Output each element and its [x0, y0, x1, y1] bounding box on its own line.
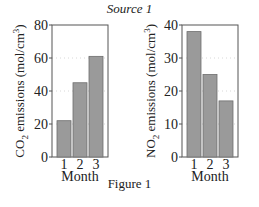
- figure-caption: Figure 1: [0, 176, 259, 192]
- bar-month-2: [73, 83, 87, 157]
- y-tick-label: 40: [34, 84, 48, 99]
- bar-month-3: [89, 56, 103, 157]
- y-tick-label: 10: [164, 117, 178, 132]
- y-tick-label: 20: [164, 84, 178, 99]
- y-axis-label: CO2 emissions (mol/cm3): [11, 24, 30, 157]
- bar-month-1: [57, 121, 71, 157]
- y-tick-label: 30: [164, 51, 178, 66]
- y-tick-label: 40: [164, 18, 178, 33]
- bar-month-1: [187, 32, 201, 157]
- y-tick-label: 0: [41, 150, 48, 165]
- bar-month-2: [203, 75, 217, 158]
- no2-emissions-chart: 123010203040MonthNO2 emissions (mol/cm3): [142, 18, 238, 184]
- co2-emissions-chart: 123020406080MonthCO2 emissions (mol/cm3): [11, 18, 108, 184]
- bar-month-3: [219, 101, 233, 157]
- y-axis-label: NO2 emissions (mol/cm3): [142, 24, 161, 158]
- y-tick-label: 80: [34, 18, 48, 33]
- y-tick-label: 20: [34, 117, 48, 132]
- y-tick-label: 0: [171, 150, 178, 165]
- y-tick-label: 60: [34, 51, 48, 66]
